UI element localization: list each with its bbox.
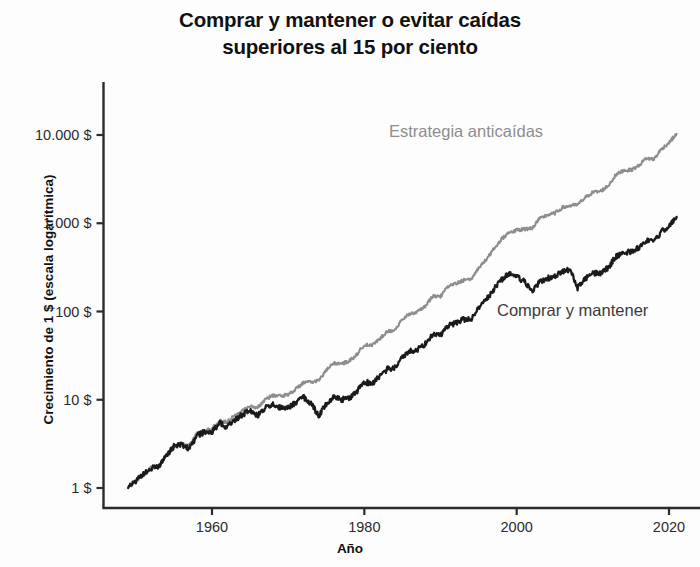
y-axis-tick-label: 10 $ (0, 392, 92, 408)
chart-figure: Comprar y mantener o evitar caídas super… (0, 0, 700, 567)
x-axis-tick-label: 1980 (348, 519, 380, 535)
plot-area (0, 0, 700, 567)
y-axis-tick-label: 10.000 $ (0, 127, 92, 143)
y-axis-tick-label: 1.000 $ (0, 215, 92, 231)
x-axis-tick-label: 1960 (196, 519, 228, 535)
y-axis-tick-label: 100 $ (0, 304, 92, 320)
x-axis-title: Año (0, 541, 700, 556)
series-label-comprar: Comprar y mantener (497, 301, 648, 320)
series-label-anticaidas: Estrategia anticaídas (389, 122, 543, 141)
series-line-comprar (128, 217, 676, 488)
x-axis-tick-label: 2000 (501, 519, 533, 535)
x-axis-tick-label: 2020 (653, 519, 685, 535)
y-axis-title: Crecimiento de 1 $ (escala logarítmica) (41, 100, 56, 500)
y-axis-tick-label: 1 $ (0, 480, 92, 496)
